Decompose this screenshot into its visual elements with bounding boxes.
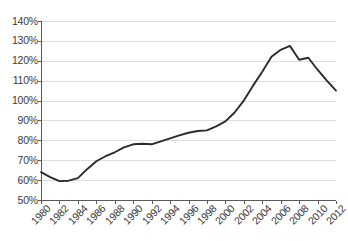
y-axis-tick-label: 110% — [0, 75, 38, 86]
y-axis-tick-label: 130% — [0, 35, 38, 46]
y-axis-tick-label: 90% — [0, 115, 38, 126]
y-axis-tick-label: 70% — [0, 155, 38, 166]
y-axis-tick-label: 80% — [0, 135, 38, 146]
series-line — [41, 46, 336, 181]
y-axis-tick-label: 100% — [0, 95, 38, 106]
y-axis-tick-labels: 140%130%120%110%100%90%80%70%60%50% — [0, 0, 38, 241]
plot-area — [41, 21, 336, 200]
data-series-layer — [41, 21, 336, 200]
y-axis-tick-label: 120% — [0, 55, 38, 66]
y-axis-tick-label: 60% — [0, 175, 38, 186]
y-axis-tick-label: 50% — [0, 195, 38, 206]
y-axis-tick-label: 140% — [0, 16, 38, 27]
x-axis-tick-labels: 1980198219841986198819901992199419961998… — [41, 203, 341, 241]
